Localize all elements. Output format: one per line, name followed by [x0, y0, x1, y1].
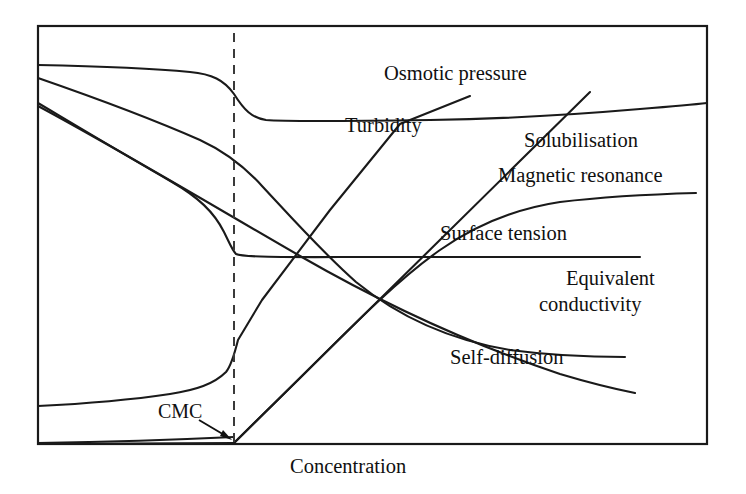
label-self-diffusion: Self-diffusion: [450, 346, 564, 368]
label-osmotic-pressure: Osmotic pressure: [384, 62, 527, 85]
figure-container: Osmotic pressure Turbidity Solubilisatio…: [0, 0, 746, 494]
label-magnetic-resonance: Magnetic resonance: [498, 164, 663, 187]
label-cmc: CMC: [158, 400, 202, 422]
x-axis-label: Concentration: [290, 455, 406, 477]
label-surface-tension: Surface tension: [440, 222, 567, 244]
curve-equivalent-conductivity: [38, 78, 625, 357]
curve-baseline-lower: [38, 443, 234, 444]
plot-frame: [38, 26, 707, 444]
surfactant-property-chart: Osmotic pressure Turbidity Solubilisatio…: [0, 0, 746, 494]
label-turbidity: Turbidity: [345, 114, 422, 137]
label-solubilisation: Solubilisation: [524, 129, 638, 151]
label-equivalent-conductivity-line2: conductivity: [539, 293, 642, 316]
label-equivalent-conductivity-line1: Equivalent: [566, 267, 655, 290]
curve-osmotic-pressure: [38, 65, 707, 121]
